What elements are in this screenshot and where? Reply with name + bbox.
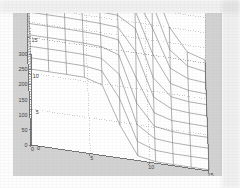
z-tick-label: 300 [18, 51, 27, 57]
z-tick-label: 150 [18, 97, 27, 103]
z-tick-label: 200 [18, 81, 27, 87]
x-tick-label: 0 [31, 146, 34, 152]
matlab-figure-panel: 050100150200250300051015051015 [13, 13, 222, 176]
x-tick-label: 15 [208, 172, 214, 176]
x-tick-label: 5 [90, 155, 93, 161]
y-tick-label: 15 [32, 37, 38, 43]
z-tick-label: 100 [18, 112, 27, 118]
z-tick-label: 50 [21, 127, 27, 133]
screenshot-root: 050100150200250300051015051015 [0, 0, 240, 188]
page-scan-artifact-top [0, 0, 240, 13]
surface-plot-canvas: 050100150200250300051015051015 [13, 13, 222, 176]
y-tick-label: 5 [36, 109, 39, 115]
z-tick-label: 250 [18, 66, 27, 72]
axes-panes [27, 13, 209, 171]
z-tick-label: 0 [24, 142, 27, 148]
x-tick-label: 10 [148, 164, 154, 170]
y-tick-label: 0 [37, 145, 40, 151]
page-scan-artifact-right [222, 0, 240, 188]
y-tick-label: 10 [33, 73, 39, 79]
